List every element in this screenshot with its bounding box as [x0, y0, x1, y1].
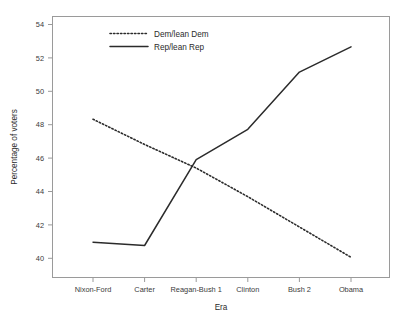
x-axis-title: Era	[215, 303, 228, 312]
x-tick-label: Obama	[339, 285, 364, 294]
y-tick-label: 48	[36, 120, 44, 129]
plot-frame	[53, 17, 390, 278]
series-group	[93, 47, 351, 257]
y-tick-label: 52	[36, 54, 44, 63]
y-axis-ticks	[48, 25, 53, 259]
x-tick-label: Nixon-Ford	[75, 285, 112, 294]
line-chart: 54 52 50 48 46 44 42 40 Nixon-Ford Carte…	[0, 0, 411, 325]
x-tick-label: Clinton	[236, 285, 259, 294]
x-tick-label: Reagan-Bush 1	[171, 285, 222, 294]
y-tick-label: 42	[36, 221, 44, 230]
series-line-rep-lean-rep	[93, 47, 351, 246]
x-axis-ticks	[93, 278, 351, 283]
x-tick-label: Bush 2	[288, 285, 311, 294]
x-tick-label: Carter	[134, 285, 155, 294]
y-axis-tick-labels: 54 52 50 48 46 44 42 40	[36, 20, 44, 263]
legend: Dem/lean Dem Rep/lean Rep	[110, 30, 209, 52]
x-axis-tick-labels: Nixon-Ford Carter Reagan-Bush 1 Clinton …	[75, 285, 364, 294]
series-line-dem-lean-dem	[93, 119, 351, 257]
y-axis-title: Percentage of voters	[10, 109, 19, 185]
chart-figure: 54 52 50 48 46 44 42 40 Nixon-Ford Carte…	[0, 0, 411, 325]
y-tick-label: 46	[36, 154, 44, 163]
y-tick-label: 40	[36, 254, 44, 263]
legend-label-rep: Rep/lean Rep	[154, 43, 205, 52]
y-tick-label: 50	[36, 87, 44, 96]
y-tick-label: 44	[36, 187, 44, 196]
y-tick-label: 54	[36, 20, 44, 29]
legend-label-dem: Dem/lean Dem	[154, 30, 209, 39]
